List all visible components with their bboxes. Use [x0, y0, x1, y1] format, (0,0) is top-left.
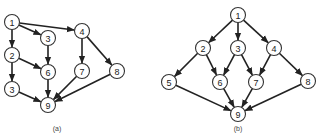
node-3: 3 [231, 41, 246, 56]
node-4: 4 [75, 24, 90, 39]
node-7: 7 [249, 75, 264, 90]
node-9: 9 [41, 98, 56, 113]
node-4: 4 [267, 41, 282, 56]
edge-1-to-4 [244, 20, 269, 43]
edge-4-to-8 [87, 37, 112, 65]
node-label: 4 [271, 44, 276, 54]
node-label: 7 [253, 78, 258, 88]
node-label: 5 [166, 78, 171, 88]
node-label: 9 [235, 110, 240, 120]
node-label: 9 [45, 101, 50, 111]
node-9: 9 [231, 107, 246, 122]
node-6: 6 [213, 75, 228, 90]
edge-2-to-6 [19, 58, 41, 68]
node-3: 3 [41, 31, 56, 46]
node-8: 8 [301, 74, 316, 89]
node-2: 2 [5, 48, 20, 63]
node-6: 6 [41, 65, 56, 80]
edge-3-to-7 [242, 55, 253, 75]
node-8: 8 [110, 64, 125, 79]
node-label: 3 [45, 34, 50, 44]
node-1: 1 [5, 15, 20, 30]
edge-2-to-5 [175, 53, 198, 76]
node-label: 8 [114, 67, 119, 77]
digraph-b: 123456789(b) [162, 8, 316, 134]
node-label: 1 [9, 18, 14, 28]
node-3: 3 [5, 82, 20, 97]
edge-6-to-9 [224, 89, 234, 107]
edge-7-to-9 [242, 89, 252, 107]
digraph-a: 134267839(a) [5, 15, 125, 134]
node-label: 3 [235, 44, 240, 54]
node-5: 5 [162, 75, 177, 90]
edge-1-to-2 [209, 20, 233, 42]
node-label: 4 [79, 27, 84, 37]
edge-4-to-7 [260, 55, 271, 75]
node-label: 2 [9, 51, 14, 61]
node-2: 2 [196, 41, 211, 56]
node-1: 1 [231, 8, 246, 23]
edge-2-to-6 [206, 55, 216, 75]
caption-b: (b) [234, 125, 243, 133]
node-label: 2 [200, 44, 205, 54]
node-label: 6 [217, 78, 222, 88]
edge-3-to-9 [19, 92, 41, 102]
node-label: 6 [45, 68, 50, 78]
node-label: 7 [79, 67, 84, 77]
node-label: 1 [235, 11, 240, 21]
graph-canvas: 134267839(a) 123456789(b) [0, 0, 318, 139]
node-label: 3 [9, 85, 14, 95]
edge-3-to-6 [224, 55, 235, 75]
edge-1-to-3 [19, 25, 41, 35]
caption-a: (a) [53, 125, 62, 133]
node-label: 8 [305, 77, 310, 87]
node-7: 7 [75, 64, 90, 79]
edge-4-to-8 [279, 53, 302, 75]
